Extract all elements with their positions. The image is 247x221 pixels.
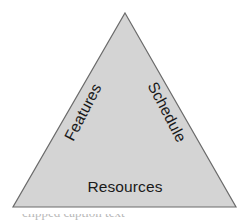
clipped-caption-strip: clipped caption text — [0, 214, 247, 221]
clipped-caption-text: clipped caption text — [22, 214, 125, 221]
project-triangle-figure: Features Schedule Resources clipped capt… — [0, 0, 247, 221]
triangle-polygon — [13, 13, 236, 207]
triangle-shape — [0, 0, 247, 221]
